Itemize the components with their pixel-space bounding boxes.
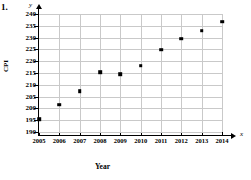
y-axis-tick-mark (34, 14, 38, 15)
x-axis-tick-label: 2007 (73, 137, 86, 144)
data-point (98, 70, 102, 74)
y-axis-tick-mark (34, 97, 38, 98)
gridline-vertical (161, 14, 162, 132)
x-axis-tick-label: 2013 (195, 137, 208, 144)
data-point (220, 20, 224, 24)
gridline-vertical (222, 14, 223, 132)
gridline-horizontal (39, 108, 222, 109)
x-axis-variable-label: x (240, 130, 243, 138)
chart-figure: 1. y x 190195200205210215220225230235240… (0, 0, 251, 180)
gridline-horizontal (39, 85, 222, 86)
data-point (119, 72, 123, 76)
data-point (200, 29, 204, 33)
data-point (37, 118, 41, 122)
gridline-horizontal (39, 120, 222, 121)
x-axis-tick-label: 2005 (33, 137, 46, 144)
gridline-vertical (59, 14, 60, 132)
gridline-horizontal (39, 26, 222, 27)
x-axis-tick-mark (222, 132, 223, 136)
x-axis-line (38, 135, 233, 136)
gridline-horizontal (39, 49, 222, 50)
gridline-horizontal (39, 14, 222, 15)
y-axis-tick-mark (34, 61, 38, 62)
x-axis-arrow-icon (231, 133, 236, 139)
x-axis-tick-label: 2008 (94, 137, 107, 144)
gridline-horizontal (39, 61, 222, 62)
gridline-horizontal (39, 97, 222, 98)
y-axis-tick-mark (34, 26, 38, 27)
gridline-horizontal (39, 132, 222, 133)
y-axis-tick-mark (34, 49, 38, 50)
gridline-vertical (141, 14, 142, 132)
x-axis-title: Year (95, 162, 110, 171)
data-point (180, 37, 184, 41)
gridline-horizontal (39, 73, 222, 74)
gridline-vertical (181, 14, 182, 132)
x-axis-tick-label: 2014 (216, 137, 229, 144)
gridline-horizontal (39, 38, 222, 39)
data-point (78, 89, 82, 93)
y-axis-tick-mark (34, 85, 38, 86)
x-axis-tick-label: 2009 (114, 137, 127, 144)
data-point (159, 48, 163, 52)
y-axis-arrow-icon (36, 4, 42, 9)
x-axis-tick-label: 2011 (155, 137, 168, 144)
data-point (58, 103, 62, 107)
y-axis-tick-mark (34, 132, 38, 133)
y-axis-tick-mark (34, 38, 38, 39)
y-axis-title: CPI (2, 51, 10, 81)
gridline-vertical (80, 14, 81, 132)
y-axis-tick-mark (34, 108, 38, 109)
y-axis-tick-labels: 190195200205210215220225230235240 (0, 0, 36, 180)
data-point (139, 64, 143, 68)
y-axis-tick-mark (34, 73, 38, 74)
plot-area (39, 14, 222, 132)
x-axis-tick-label: 2006 (53, 137, 66, 144)
x-axis-tick-label: 2010 (134, 137, 147, 144)
x-axis-tick-label: 2012 (175, 137, 188, 144)
